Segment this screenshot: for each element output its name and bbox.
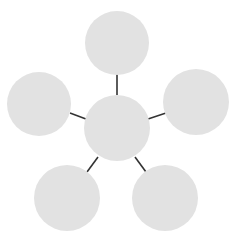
node-circle-center (84, 95, 150, 161)
hub-spoke-diagram (0, 0, 237, 238)
node-circle-bottom-right (132, 165, 198, 231)
connector-line-bottom-right (135, 157, 146, 172)
node-circle-top (85, 11, 149, 75)
connector-line-bottom-left (87, 157, 98, 172)
connector-line-left (70, 113, 86, 119)
node-circle-right (163, 69, 229, 135)
diagram-nodes (7, 11, 229, 231)
connector-line-right (148, 113, 166, 119)
node-circle-left (7, 72, 71, 136)
node-circle-bottom-left (34, 165, 100, 231)
